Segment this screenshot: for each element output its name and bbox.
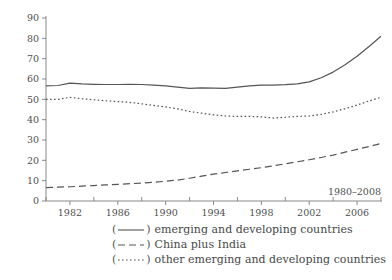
legend-label-china-plus-india: China plus India (155, 239, 247, 250)
y-axis: 0102030405060708090 (27, 12, 46, 206)
x-tick-label: 1982 (58, 207, 82, 218)
legend-open-paren: ( (112, 224, 116, 235)
legend-open-paren: ( (112, 254, 116, 265)
y-tick-label: 50 (27, 94, 39, 105)
x-axis: 1982198619901994199820022006 (46, 197, 382, 218)
legend-item[interactable]: ( ) other emerging and developing countr… (0, 252, 392, 267)
series-line (46, 36, 381, 88)
y-tick-label: 60 (27, 73, 39, 84)
legend-close-paren: ) (146, 224, 150, 235)
legend-item[interactable]: ( ) emerging and developing countries (0, 222, 392, 237)
legend-close-paren: ) (146, 239, 150, 250)
legend-open-paren: ( (112, 239, 116, 250)
series-line (46, 143, 381, 187)
y-tick-label: 80 (27, 33, 39, 44)
legend-item[interactable]: ( ) China plus India (0, 237, 392, 252)
x-tick-label: 1994 (201, 207, 225, 218)
chart-annotation: 1980–2008 (328, 186, 381, 197)
y-tick-label: 30 (27, 134, 39, 145)
x-tick-label: 2002 (297, 207, 321, 218)
y-tick-label: 90 (27, 12, 39, 23)
chart-legend: ( ) emerging and developing countries ( … (0, 222, 392, 280)
chart-figure: 0102030405060708090 19821986199019941998… (0, 0, 392, 280)
legend-line-sample-solid (117, 225, 145, 234)
y-tick-label: 10 (27, 175, 39, 186)
y-tick-label: 0 (33, 195, 39, 206)
series-line (46, 97, 381, 118)
y-tick-label: 70 (27, 53, 39, 64)
x-tick-label: 1990 (154, 207, 178, 218)
y-tick-label: 20 (27, 155, 39, 166)
data-series-group (46, 36, 381, 187)
x-tick-label: 1998 (249, 207, 273, 218)
x-tick-label: 2006 (345, 207, 369, 218)
y-tick-label: 40 (27, 114, 39, 125)
legend-label-other-emerging: other emerging and developing countries (155, 254, 386, 265)
legend-label-emerging-developing: emerging and developing countries (155, 224, 353, 235)
x-tick-label: 1986 (106, 207, 130, 218)
legend-line-sample-dotted (117, 255, 145, 264)
legend-close-paren: ) (146, 254, 150, 265)
legend-line-sample-dashed (117, 240, 145, 249)
